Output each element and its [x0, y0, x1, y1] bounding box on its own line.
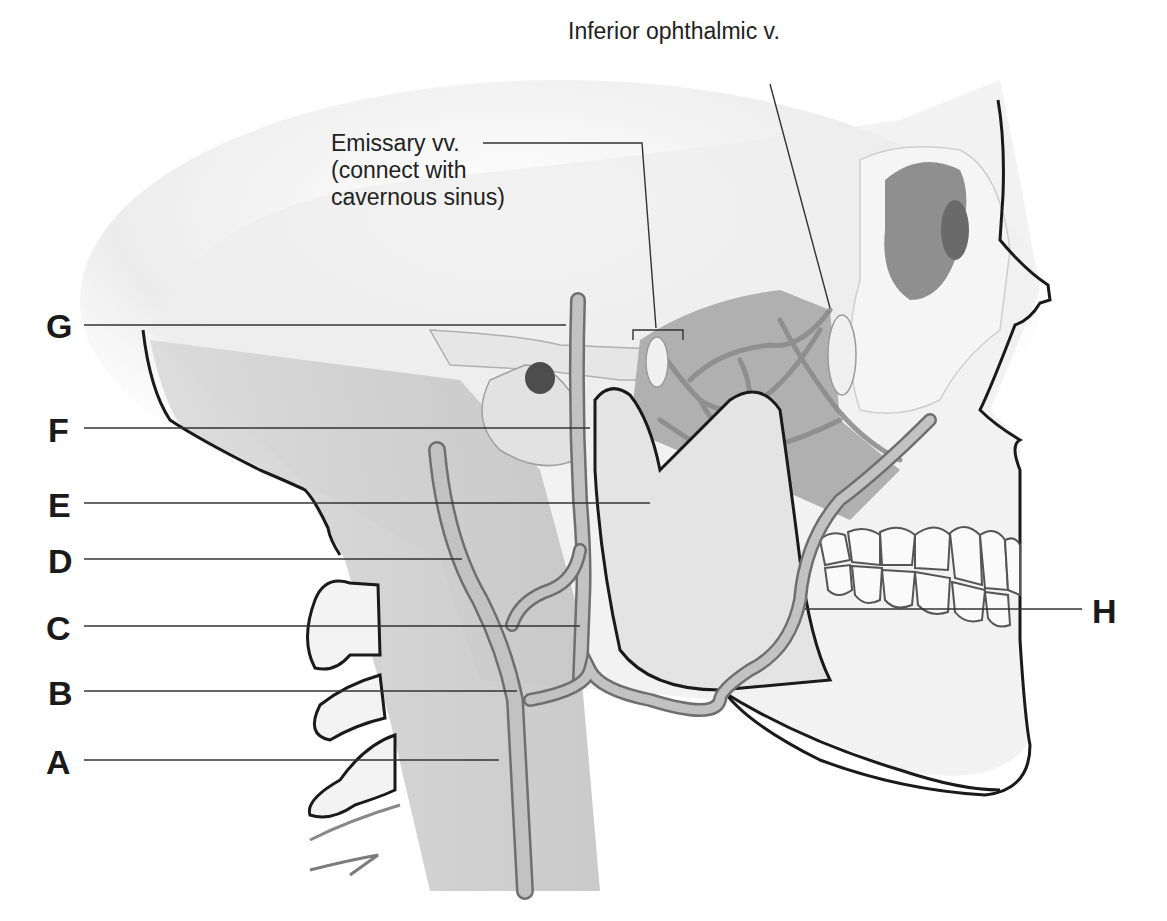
label-inferior-ophthalmic-vein: Inferior ophthalmic v.	[568, 18, 780, 45]
anatomy-illustration	[0, 0, 1167, 921]
label-H: H	[1092, 594, 1117, 628]
label-emissary-veins: Emissary vv. (connect with cavernous sin…	[331, 130, 505, 211]
label-B: B	[48, 676, 73, 710]
caption-line: Emissary vv.	[331, 130, 505, 157]
caption-line: (connect with	[331, 157, 505, 184]
label-F: F	[48, 413, 69, 447]
label-D: D	[48, 544, 73, 578]
label-A: A	[46, 745, 71, 779]
caption-line: cavernous sinus)	[331, 184, 505, 211]
label-C: C	[46, 611, 71, 645]
label-E: E	[48, 488, 71, 522]
clavicle-hint-2	[310, 855, 378, 875]
label-G: G	[46, 309, 72, 343]
caption-line: Inferior ophthalmic v.	[568, 18, 780, 44]
